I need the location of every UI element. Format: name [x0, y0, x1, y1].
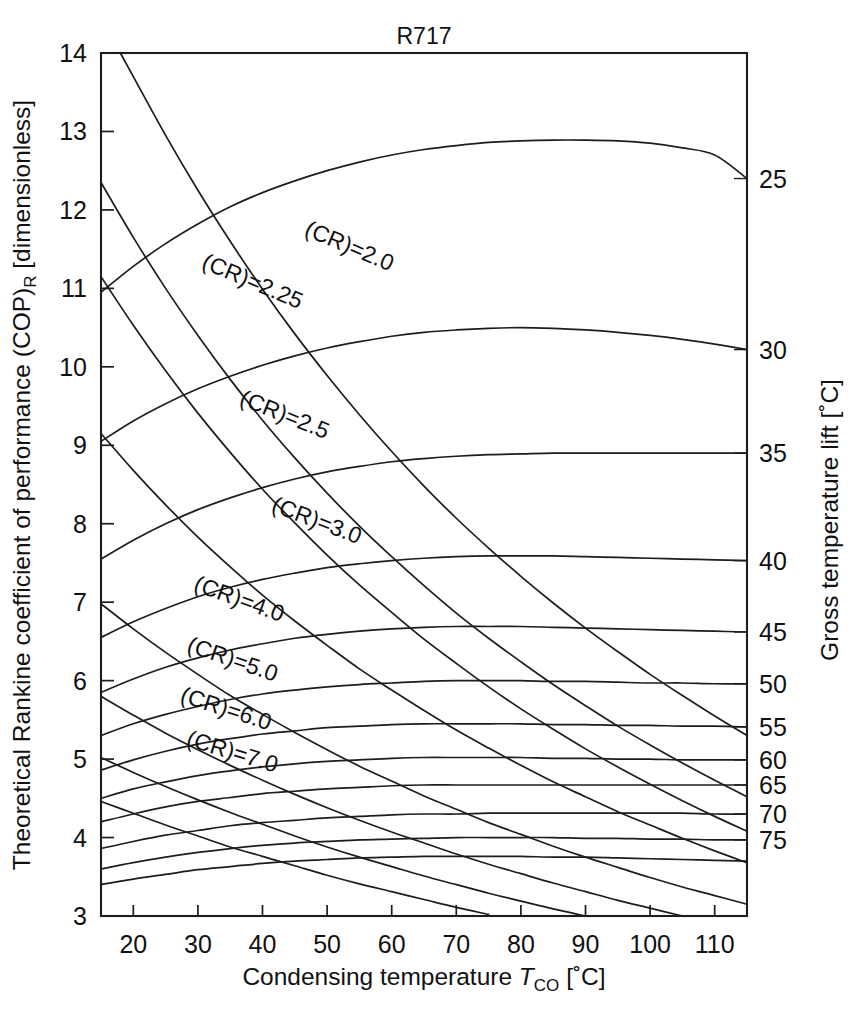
chart-title: R717 — [397, 23, 452, 49]
x-tick-label-70: 70 — [442, 930, 470, 958]
curve-label-cr-3-0: (CR)=3.0 — [269, 491, 366, 549]
y-tick-label-14: 14 — [59, 39, 87, 67]
y-tick-label-13: 13 — [59, 117, 87, 145]
y-tick-label-10: 10 — [59, 353, 87, 381]
y-tick-label-3: 3 — [73, 902, 87, 930]
y-tick-label-6: 6 — [73, 667, 87, 695]
curve-label-cr-4-0: (CR)=4.0 — [191, 570, 288, 627]
figure-r717-cop-chart: R717 2030405060708090100110 345678910111… — [0, 0, 857, 1012]
y2-tick-label-55: 55 — [759, 713, 787, 741]
x-tick-label-60: 60 — [378, 930, 406, 958]
x-tick-label-110: 110 — [695, 930, 735, 958]
y2-tick-label-30: 30 — [759, 336, 787, 364]
y2-tick-label-70: 70 — [759, 800, 787, 828]
plot-frame — [101, 53, 747, 916]
y2-tick-label-45: 45 — [759, 618, 787, 646]
y2-axis-title: Gross temperature lift [˚C] — [816, 379, 843, 661]
curve-label-cr-5-0: (CR)=5.0 — [184, 631, 281, 686]
y2-tick-label-40: 40 — [759, 547, 787, 575]
curve-label-cr-2-25: (CR)=2.25 — [199, 248, 307, 314]
curve-cr-2-0 — [120, 53, 747, 736]
x-tick-label-40: 40 — [249, 930, 277, 958]
y-axis-title: Theoretical Rankine coefficient of perfo… — [8, 100, 40, 870]
y-tick-label-12: 12 — [59, 196, 87, 224]
y2-axis-ticks: 2530354045505560657075 — [734, 165, 787, 854]
x-tick-label-80: 80 — [507, 930, 535, 958]
y-tick-label-11: 11 — [61, 274, 87, 302]
x-axis-ticks: 2030405060708090100110 — [119, 905, 734, 958]
curve-cr-5-0 — [101, 696, 682, 916]
x-tick-label-30: 30 — [184, 930, 212, 958]
curve-label-cr-2-0: (CR)=2.0 — [301, 215, 398, 276]
curve-lift-35 — [101, 453, 747, 559]
y-tick-label-9: 9 — [73, 431, 87, 459]
curve-lift-30 — [101, 328, 747, 442]
y2-tick-label-65: 65 — [759, 771, 787, 799]
y-tick-label-7: 7 — [73, 588, 87, 616]
y-tick-label-8: 8 — [73, 510, 87, 538]
x-tick-label-50: 50 — [313, 930, 341, 958]
curve-group — [101, 53, 747, 916]
curve-label-cr-2-5: (CR)=2.5 — [236, 385, 333, 444]
curve-lift-25 — [101, 140, 747, 292]
y-tick-label-5: 5 — [73, 745, 87, 773]
y2-tick-label-35: 35 — [759, 439, 787, 467]
curve-lift-80 — [101, 856, 747, 884]
x-axis-title: Condensing temperature TCO [˚C] — [242, 963, 605, 995]
y-tick-label-4: 4 — [73, 824, 87, 852]
chart-canvas: R717 2030405060708090100110 345678910111… — [0, 0, 857, 1012]
x-tick-label-20: 20 — [119, 930, 147, 958]
y2-tick-label-25: 25 — [759, 165, 787, 193]
y2-tick-label-75: 75 — [759, 826, 787, 854]
x-tick-label-100: 100 — [629, 930, 671, 958]
curve-labels: (CR)=2.0(CR)=2.25(CR)=2.5(CR)=3.0(CR)=4.… — [177, 215, 397, 777]
y2-tick-label-60: 60 — [759, 746, 787, 774]
curve-lift-65 — [101, 785, 747, 822]
x-tick-label-90: 90 — [572, 930, 600, 958]
y2-tick-label-50: 50 — [759, 670, 787, 698]
curve-lift-60 — [101, 757, 747, 798]
